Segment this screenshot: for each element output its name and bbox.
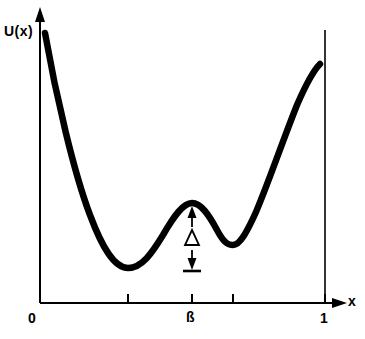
x-tick-label-one: 1	[320, 311, 328, 325]
y-axis-label: U(x)	[4, 24, 33, 38]
delta-symbol	[185, 230, 199, 245]
x-axis-label: x	[348, 294, 356, 308]
barrier-height-annotation	[183, 206, 201, 271]
x-tick-label-beta: ß	[186, 310, 195, 324]
x-axis-ticks	[128, 294, 325, 303]
plot-canvas	[0, 0, 365, 339]
x-axis	[40, 298, 347, 308]
x-tick-label-origin: 0	[28, 311, 36, 325]
y-axis	[35, 7, 45, 303]
potential-energy-figure: U(x) x 0 ß 1	[0, 0, 365, 339]
potential-curve	[45, 33, 320, 268]
